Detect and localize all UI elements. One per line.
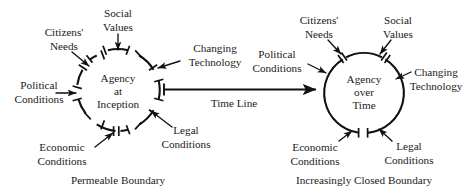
- time-line-connector: Time Line: [164, 84, 316, 109]
- boundary-gap-tick: [135, 50, 142, 57]
- right-citizens-needs-line-1: Citizens': [300, 14, 339, 26]
- left-economic-conditions-line-2: Conditions: [37, 155, 86, 167]
- left-influence-changing-technology: Changing Technology: [158, 42, 242, 68]
- right-influence-legal-conditions: Legal Conditions: [379, 129, 434, 166]
- left-influence-economic-conditions: Economic Conditions: [37, 133, 113, 167]
- boundary-arc-segment: [159, 81, 160, 99]
- left-citizens-needs-line-1: Citizens': [45, 26, 84, 38]
- right-changing-technology-line-1: Changing: [414, 66, 458, 78]
- left-political-conditions-line-2: Conditions: [14, 93, 63, 105]
- left-influence-political-conditions: Political Conditions: [14, 79, 76, 105]
- right-social-values-line-1: Social: [384, 14, 412, 26]
- left-citizens-needs-arrow: [72, 52, 89, 66]
- left-agency-label-line-2: at: [114, 85, 123, 97]
- right-legal-conditions-line-2: Conditions: [384, 154, 433, 166]
- boundary-gap-tick: [73, 86, 82, 89]
- right-influence-citizens-needs: Citizens' Needs: [300, 14, 341, 54]
- left-influence-citizens-needs: Citizens' Needs: [45, 26, 89, 66]
- boundary-gap-tick: [73, 98, 82, 101]
- boundary-arc-segment: [78, 99, 85, 113]
- boundary-arc-segment: [97, 124, 116, 131]
- boundary-arc-segment: [346, 53, 382, 57]
- boundary-arc-segment: [121, 130, 129, 131]
- right-economic-conditions-line-1: Economic: [292, 141, 337, 153]
- right-economic-conditions-arrow: [339, 131, 352, 141]
- boundary-arc-segment: [77, 70, 82, 85]
- left-citizens-needs-line-2: Needs: [50, 40, 78, 52]
- right-panel: Agency over Time Citizens' Needs Social …: [252, 14, 462, 186]
- right-political-conditions-line-2: Conditions: [252, 62, 301, 74]
- boundary-gap-tick: [101, 50, 104, 59]
- right-political-conditions-arrow: [308, 64, 326, 73]
- boundary-gap-tick: [79, 65, 87, 70]
- boundary-gap-tick: [84, 112, 91, 119]
- left-legal-conditions-line-1: Legal: [173, 124, 198, 136]
- left-panel: Agency at Inception Citizens' Needs Soci…: [14, 7, 241, 186]
- right-agency-label: Agency over Time: [347, 73, 382, 111]
- right-panel-caption: Increasingly Closed Boundary: [296, 174, 432, 186]
- diagram-root: Agency at Inception Citizens' Needs Soci…: [0, 0, 472, 196]
- right-influence-economic-conditions: Economic Conditions: [290, 131, 352, 167]
- left-agency-label-line-3: Inception: [97, 98, 140, 110]
- right-changing-technology-line-2: Technology: [410, 80, 463, 92]
- left-changing-technology-line-2: Technology: [189, 56, 242, 68]
- right-political-conditions-line-1: Political: [258, 48, 295, 60]
- right-social-values-arrow: [380, 40, 391, 54]
- left-agency-label-line-1: Agency: [101, 72, 136, 84]
- boundary-gap-tick: [135, 122, 142, 129]
- left-legal-conditions-line-2: Conditions: [161, 138, 210, 150]
- right-citizens-needs-arrow: [328, 40, 341, 54]
- time-line-label: Time Line: [211, 97, 258, 109]
- left-influence-legal-conditions: Legal Conditions: [151, 111, 211, 150]
- right-social-values-line-2: Values: [383, 28, 413, 40]
- right-economic-conditions-line-2: Conditions: [290, 155, 339, 167]
- left-legal-conditions-arrow: [151, 111, 172, 127]
- right-influence-changing-technology: Changing Technology: [396, 66, 463, 92]
- right-legal-conditions-line-1: Legal: [396, 140, 421, 152]
- left-economic-conditions-line-1: Economic: [39, 141, 84, 153]
- right-citizens-needs-line-2: Needs: [305, 28, 333, 40]
- left-economic-conditions-arrow: [95, 133, 113, 147]
- right-influence-social-values: Social Values: [380, 14, 413, 54]
- diagram-canvas: Agency at Inception Citizens' Needs Soci…: [0, 0, 472, 196]
- left-social-values-line-2: Values: [103, 21, 133, 33]
- left-changing-technology-line-1: Changing: [193, 42, 237, 54]
- right-influence-political-conditions: Political Conditions: [252, 48, 326, 74]
- right-agency-label-line-1: Agency: [347, 73, 382, 85]
- boundary-arc-segment: [90, 56, 97, 60]
- left-social-values-line-1: Social: [104, 7, 132, 19]
- right-agency-label-line-3: Time: [352, 99, 375, 111]
- left-changing-technology-arrow: [158, 61, 180, 68]
- boundary-gap-tick: [103, 46, 106, 55]
- left-political-conditions-line-1: Political: [20, 79, 57, 91]
- left-influence-social-values: Social Values: [103, 7, 133, 50]
- right-agency-label-line-2: over: [354, 86, 374, 98]
- left-agency-label: Agency at Inception: [97, 72, 140, 110]
- right-legal-conditions-arrow: [379, 129, 392, 141]
- left-panel-caption: Permeable Boundary: [71, 174, 166, 186]
